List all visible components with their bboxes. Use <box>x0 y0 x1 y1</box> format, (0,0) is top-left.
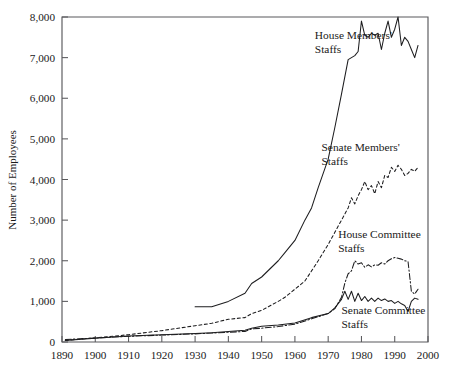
senate-committee-staffs-label-line1: Senate Committee <box>341 304 425 316</box>
house-committee-staffs-label-line1: House Committee <box>338 228 421 240</box>
x-tick-label: 1920 <box>151 349 174 361</box>
x-tick-label: 1970 <box>317 349 340 361</box>
x-tick-label: 1950 <box>250 349 273 361</box>
x-tick-label: 1940 <box>217 349 240 361</box>
x-tick-label: 1900 <box>84 349 107 361</box>
y-axis-title: Number of Employees <box>6 130 18 230</box>
y-tick-label: 5,000 <box>30 133 56 145</box>
y-tick-label: 1,000 <box>30 295 56 307</box>
senate-members-staffs-label-line1: Senate Members' <box>322 141 400 153</box>
y-tick-label: 7,000 <box>30 52 56 64</box>
x-tick-label: 2000 <box>417 349 440 361</box>
congressional-staff-line-chart: 01,0002,0003,0004,0005,0006,0007,0008,00… <box>0 0 452 382</box>
senate-committee-staffs-label-line2: Staffs <box>341 318 368 330</box>
x-tick-label: 1890 <box>51 349 74 361</box>
y-tick-label: 0 <box>49 336 55 348</box>
y-tick-label: 4,000 <box>30 174 56 186</box>
x-tick-label: 1960 <box>284 349 307 361</box>
x-tick-label: 1930 <box>184 349 207 361</box>
y-axis-tick-labels: 01,0002,0003,0004,0005,0006,0007,0008,00… <box>30 11 56 348</box>
y-tick-label: 3,000 <box>30 214 56 226</box>
y-tick-label: 6,000 <box>30 92 56 104</box>
x-tick-label: 1910 <box>117 349 140 361</box>
x-tick-label: 1990 <box>384 349 407 361</box>
house-members-staffs-label-line2: Staffs <box>315 43 342 55</box>
y-tick-label: 2,000 <box>30 255 56 267</box>
house-committee-staffs-label-line2: Staffs <box>338 242 365 254</box>
house-members-staffs-label-line1: House Members' <box>315 29 392 41</box>
senate-members-staffs-label-line2: Staffs <box>322 155 349 167</box>
y-tick-label: 8,000 <box>30 11 56 23</box>
chart-figure: 01,0002,0003,0004,0005,0006,0007,0008,00… <box>0 0 452 382</box>
x-tick-label: 1980 <box>350 349 373 361</box>
